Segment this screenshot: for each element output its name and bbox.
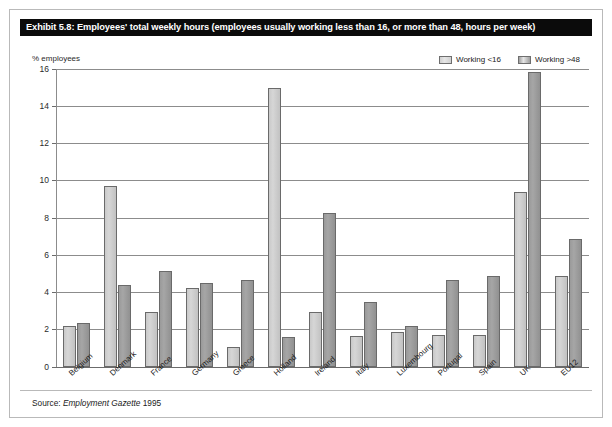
chart-legend: Working <16Working >48	[439, 55, 580, 64]
bar-group	[186, 69, 213, 367]
y-tick-label: 4	[44, 287, 49, 297]
plot-area: 0246810121416	[56, 69, 589, 367]
legend-entry: Working <16	[439, 55, 501, 64]
y-tick-label: 2	[44, 324, 49, 334]
bar	[528, 72, 541, 367]
bar-group	[350, 69, 377, 367]
y-tick-label: 10	[40, 175, 49, 185]
bar	[323, 213, 336, 367]
bar	[514, 192, 527, 367]
bar-group	[227, 69, 254, 367]
source-note: Source: Employment Gazette 1995	[32, 398, 161, 408]
bar	[350, 336, 363, 367]
bar	[104, 186, 117, 367]
bar	[432, 335, 445, 367]
bar-group	[104, 69, 131, 367]
y-tick-label: 14	[40, 101, 49, 111]
y-tick-label: 6	[44, 250, 49, 260]
source-prefix: Source:	[32, 398, 63, 408]
bar	[241, 280, 254, 367]
exhibit-panel: Exhibit 5.8: Employees' total weekly hou…	[9, 9, 603, 418]
bar	[473, 335, 486, 367]
legend-entry: Working >48	[518, 55, 580, 64]
bar-group	[514, 69, 541, 367]
bar	[555, 276, 568, 367]
legend-swatch-working-over-48	[518, 56, 531, 64]
legend-label: Working >48	[535, 55, 580, 64]
bar	[63, 326, 76, 367]
bar	[391, 332, 404, 367]
y-tick-label: 8	[44, 213, 49, 223]
bar-group	[63, 69, 90, 367]
footer-divider	[20, 390, 592, 391]
y-tick-label: 0	[44, 362, 49, 372]
bar-series-layer	[56, 69, 589, 367]
bar-group	[309, 69, 336, 367]
bar	[487, 276, 500, 367]
bar	[268, 88, 281, 367]
legend-label: Working <16	[456, 55, 501, 64]
bar-group	[391, 69, 418, 367]
bar-group	[555, 69, 582, 367]
exhibit-title: Exhibit 5.8: Employees' total weekly hou…	[20, 19, 592, 36]
bar	[569, 239, 582, 368]
bar-group	[268, 69, 295, 367]
bar	[186, 288, 199, 367]
source-publication: Employment Gazette	[63, 398, 140, 408]
bar	[309, 312, 322, 367]
y-tick-label: 16	[40, 64, 49, 74]
bar	[145, 312, 158, 367]
y-axis-title: % employees	[32, 54, 80, 63]
bar	[364, 302, 377, 367]
y-tick-label: 12	[40, 138, 49, 148]
source-year: 1995	[140, 398, 161, 408]
legend-swatch-working-under-16	[439, 56, 452, 64]
bar	[159, 271, 172, 367]
bar-group	[432, 69, 459, 367]
bar-group	[473, 69, 500, 367]
bar-group	[145, 69, 172, 367]
